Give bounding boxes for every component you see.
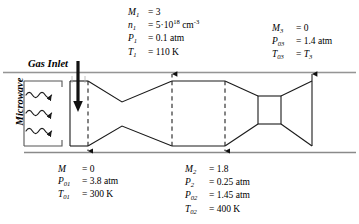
mach-symbol: M (128, 7, 136, 17)
total-pressure-value: = 1.45 atm (209, 189, 250, 201)
total-temperature-value: = 300 K (82, 188, 113, 200)
mach-value: = 0 (296, 22, 308, 34)
mach-value: = 0 (82, 163, 94, 175)
total-temperature-value: = T3 (296, 48, 312, 61)
microwave-wave-arrows (26, 92, 52, 133)
total-pressure-subscript: 03 (278, 40, 285, 47)
station-3-conditions: M3 = 0 P03 = 1.4 atm T03 = T3 (272, 22, 332, 62)
mach-subscript: 1 (136, 11, 139, 18)
pressure-symbol: P (128, 33, 134, 43)
temperature-subscript: 1 (133, 51, 136, 58)
station-1-temperature-row: T1 = 110 K (128, 46, 199, 59)
pressure-symbol: P (185, 177, 191, 187)
mach-subscript: 2 (193, 168, 196, 175)
gas-inlet-label: Gas Inlet (28, 58, 68, 69)
station-1-mach-row: M1 = 3 (128, 6, 199, 19)
station-3-total-temperature-row: T03 = T3 (272, 48, 332, 61)
total-temperature-subscript: 03 (277, 53, 284, 60)
total-temperature-subscript: 01 (63, 193, 70, 200)
station-0-total-pressure-row: P01 = 3.8 atm (58, 175, 118, 188)
station-3-total-pressure-row: P03 = 1.4 atm (272, 35, 332, 48)
microwave-label: Microwave (14, 70, 25, 134)
total-pressure-symbol: P (185, 190, 191, 200)
station-1-density-row: n1 = 5·1018 cm-3 (128, 19, 199, 32)
mach-value: = 1.8 (209, 163, 229, 175)
pressure-subscript: 2 (191, 181, 194, 188)
station-2-total-pressure-row: P02 = 1.45 atm (185, 189, 250, 202)
density-subscript: 1 (133, 24, 136, 31)
station-2-conditions: M2 = 1.8 P2 = 0.25 atm P02 = 1.45 atm T0… (185, 163, 250, 216)
duct-walls (70, 81, 312, 146)
mach-subscript: 3 (280, 27, 283, 34)
total-pressure-subscript: 01 (64, 180, 71, 187)
outer-rails (3, 73, 356, 153)
station-2-pressure-row: P2 = 0.25 atm (185, 176, 250, 189)
pressure-value: = 0.1 atm (148, 32, 184, 44)
gas-inlet-arrow (72, 61, 85, 112)
station-2-mach-row: M2 = 1.8 (185, 163, 250, 176)
total-pressure-symbol: P (58, 176, 64, 186)
station-3-mach-row: M3 = 0 (272, 22, 332, 35)
station-1-pressure-row: P1 = 0.1 atm (128, 32, 199, 45)
total-pressure-value: = 1.4 atm (296, 35, 332, 47)
mach-symbol: M (58, 163, 82, 175)
total-temperature-value: = 400 K (209, 203, 240, 215)
diagram-canvas: Gas Inlet Microwave M1 = 3 n1 = 5·1018 c… (0, 0, 359, 224)
total-temperature-subscript: 02 (190, 208, 197, 215)
total-pressure-subscript: 02 (191, 194, 198, 201)
temperature-value: = 110 K (148, 46, 179, 58)
density-value: = 5·1018 cm-3 (148, 19, 199, 32)
station-1-conditions: M1 = 3 n1 = 5·1018 cm-3 P1 = 0.1 atm T1 … (128, 6, 199, 59)
station-0-conditions: M = 0 P01 = 3.8 atm T01 = 300 K (58, 163, 118, 202)
pressure-subscript: 1 (134, 37, 137, 44)
pressure-value: = 0.25 atm (209, 176, 250, 188)
microwave-applicator-housing (24, 81, 62, 146)
mach-value: = 3 (148, 6, 160, 18)
total-pressure-symbol: P (272, 36, 278, 46)
station-0-mach-row: M = 0 (58, 163, 118, 175)
mach-symbol: M (272, 23, 280, 33)
total-pressure-value: = 3.8 atm (82, 175, 118, 187)
mach-symbol: M (185, 164, 193, 174)
station-2-total-temperature-row: T02 = 400 K (185, 203, 250, 216)
station-0-total-temperature-row: T01 = 300 K (58, 188, 118, 201)
